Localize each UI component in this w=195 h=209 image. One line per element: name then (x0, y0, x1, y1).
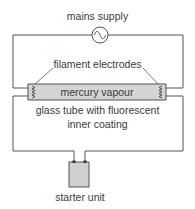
glass-tube-label-line2: inner coating (0, 118, 195, 130)
mains-supply-label: mains supply (0, 10, 195, 22)
starter-unit-box (69, 162, 89, 187)
pointer-left-electrode (35, 68, 53, 84)
filament-electrodes-label: filament electrodes (0, 58, 195, 70)
ac-source-icon (92, 27, 108, 43)
starter-terminal-right (84, 161, 87, 164)
starter-unit-label: starter unit (30, 191, 130, 203)
pointer-right-electrode (143, 68, 158, 84)
glass-tube-label-line1: glass tube with fluorescent (0, 104, 195, 116)
mercury-vapour-label: mercury vapour (28, 86, 166, 98)
starter-terminal-left (73, 161, 76, 164)
